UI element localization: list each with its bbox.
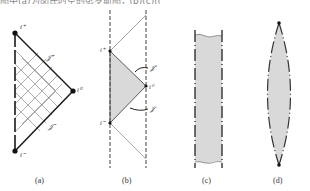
scri-minus-arrow bbox=[130, 108, 148, 110]
caption-b: (b) bbox=[122, 176, 132, 185]
caption-c: (c) bbox=[202, 176, 211, 185]
i-zero-point bbox=[144, 84, 147, 87]
label-i-zero: i⁰ bbox=[77, 86, 83, 94]
strip-region bbox=[195, 34, 222, 163]
null-grid bbox=[15, 50, 62, 132]
lower-null-line bbox=[110, 123, 146, 159]
panel-b: i⁺ i⁰ i⁻ 𝒥⁺ 𝒥⁻ (b) bbox=[100, 10, 158, 185]
shaded-region bbox=[110, 51, 146, 123]
i-zero-point bbox=[70, 88, 75, 93]
conformal-diagrams: i⁺ i⁰ i⁻ 𝒥⁺ 𝒥⁻ (a) i⁺ i⁰ i⁻ 𝒥⁺ 𝒥⁻ (b) bbox=[0, 0, 310, 191]
label-scri-plus: 𝒥⁺ bbox=[45, 54, 55, 62]
i-plus-point bbox=[12, 30, 17, 35]
scri-plus-edge bbox=[15, 33, 73, 91]
label-scri-minus: 𝒥⁻ bbox=[47, 123, 57, 131]
lens-top-point bbox=[277, 21, 281, 25]
label-i-plus: i⁺ bbox=[20, 23, 27, 31]
label-i-minus: i⁻ bbox=[100, 119, 106, 126]
lens-bottom-point bbox=[277, 163, 281, 167]
label-scri-plus: 𝒥⁺ bbox=[149, 64, 158, 72]
label-i-minus: i⁻ bbox=[20, 151, 27, 159]
upper-null-line bbox=[110, 15, 146, 51]
label-i-zero: i⁰ bbox=[149, 83, 155, 90]
label-scri-minus: 𝒥⁻ bbox=[149, 105, 158, 113]
caption-d: (d) bbox=[273, 176, 283, 185]
panel-a: i⁺ i⁰ i⁻ 𝒥⁺ 𝒥⁻ (a) bbox=[12, 23, 83, 185]
lens-region bbox=[268, 23, 291, 165]
panel-c: (c) bbox=[195, 30, 222, 185]
label-i-plus: i⁺ bbox=[100, 46, 106, 53]
i-plus-point bbox=[108, 49, 111, 52]
caption-a: (a) bbox=[35, 176, 44, 185]
scri-minus-edge bbox=[15, 91, 73, 151]
i-minus-point bbox=[108, 121, 111, 124]
panel-d: (d) bbox=[268, 21, 291, 185]
i-minus-point bbox=[12, 148, 17, 153]
